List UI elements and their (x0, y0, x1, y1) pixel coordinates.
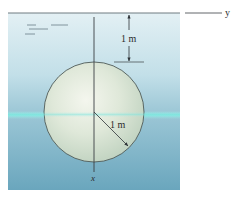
depth-dimension-label: 1 m (121, 33, 137, 44)
radius-dimension-label: 1 m (110, 119, 126, 130)
hydrostatic-diagram: y x 1 m 1 m (0, 0, 231, 201)
x-axis-label: x (90, 173, 95, 183)
y-axis-label: y (225, 7, 230, 18)
